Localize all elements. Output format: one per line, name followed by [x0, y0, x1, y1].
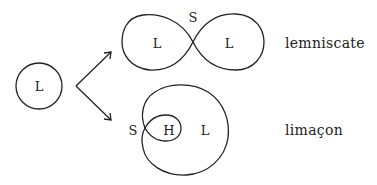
source-label: L — [35, 80, 44, 93]
arrow-down — [76, 86, 111, 120]
lemniscate-crossing-label: S — [189, 11, 198, 24]
limacon-outer-loop — [142, 85, 228, 175]
limacon-name: limaçon — [285, 123, 343, 137]
lemniscate-left-lobe-label: L — [153, 37, 162, 50]
lemniscate-name: lemniscate — [285, 36, 365, 50]
limacon-outer-loop-label: L — [201, 124, 210, 137]
limacon-inner-loop-label: H — [163, 124, 174, 137]
arrow-up — [76, 52, 111, 86]
limacon-cusp-label: S — [129, 124, 138, 137]
lemniscate-right-lobe-label: L — [225, 37, 234, 50]
diagram-canvas — [0, 0, 377, 185]
